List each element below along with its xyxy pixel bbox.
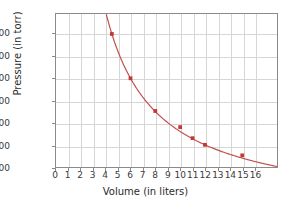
plot-area: [55, 13, 278, 168]
data-point-marker: [110, 32, 114, 36]
x-tick-label: 6: [127, 170, 133, 180]
data-point-marker: [129, 76, 133, 80]
x-tick-mark: [193, 168, 194, 171]
x-tick-mark: [93, 168, 94, 171]
x-tick-label: 0: [52, 170, 58, 180]
x-tick-mark: [143, 168, 144, 171]
x-tick-label: 11: [187, 170, 198, 180]
x-tick-mark: [230, 168, 231, 171]
x-tick-mark: [218, 168, 219, 171]
x-tick-mark: [255, 168, 256, 171]
x-tick-label: 1: [65, 170, 71, 180]
data-point-marker: [240, 153, 244, 157]
x-tick-mark: [168, 168, 169, 171]
x-tick-label: 15: [237, 170, 248, 180]
x-tick-mark: [155, 168, 156, 171]
x-tick-mark: [55, 168, 56, 171]
data-point-marker: [153, 109, 157, 113]
x-tick-label: 7: [140, 170, 146, 180]
x-tick-mark: [80, 168, 81, 171]
x-tick-label: 3: [90, 170, 96, 180]
data-point-marker: [191, 136, 195, 140]
curve-pressure-volume: [106, 14, 277, 166]
x-axis-title: Volume (in liters): [0, 186, 291, 197]
x-tick-label: 8: [152, 170, 158, 180]
x-tick-mark: [130, 168, 131, 171]
x-tick-mark: [105, 168, 106, 171]
x-tick-mark: [205, 168, 206, 171]
data-point-marker: [178, 125, 182, 129]
x-tick-label: 5: [115, 170, 121, 180]
x-tick-label: 2: [77, 170, 83, 180]
data-point-marker: [203, 143, 207, 147]
data-point-markers: [110, 32, 244, 157]
x-tick-label: 10: [175, 170, 186, 180]
x-tick-mark: [243, 168, 244, 171]
x-tick-label: 14: [225, 170, 236, 180]
x-tick-mark: [118, 168, 119, 171]
x-tick-mark: [68, 168, 69, 171]
x-tick-label: 4: [102, 170, 108, 180]
x-tick-label: 13: [212, 170, 223, 180]
x-tick-label: 9: [165, 170, 171, 180]
x-tick-mark: [180, 168, 181, 171]
x-tick-label: 12: [200, 170, 211, 180]
chart-figure: Pressure (in torr) 400600800100012001400…: [0, 0, 291, 210]
x-tick-label: 16: [250, 170, 261, 180]
data-series-layer: [56, 14, 277, 167]
